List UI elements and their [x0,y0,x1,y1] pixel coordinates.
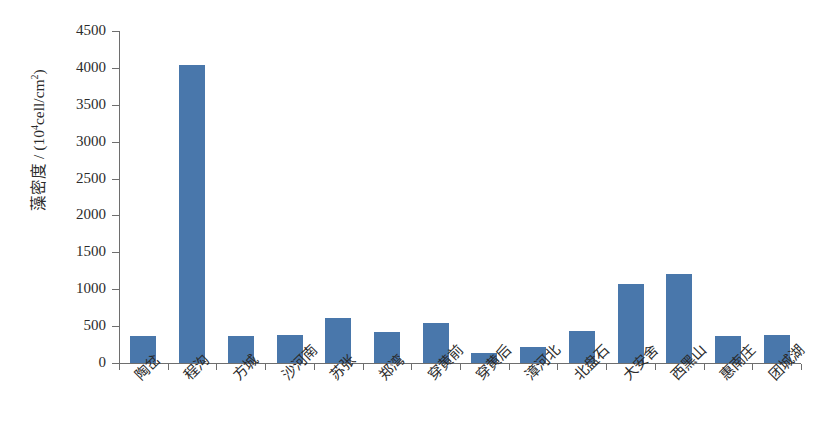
x-tick-mark [216,364,217,370]
y-tick-label: 4500 [46,23,106,38]
x-tick-mark [704,364,705,370]
y-tick-mark [112,252,119,253]
y-tick-label: 1000 [46,281,106,296]
x-tick-mark [606,364,607,370]
y-tick-label: 2000 [46,207,106,222]
x-tick-mark [265,364,266,370]
y-tick-mark [112,326,119,327]
y-tick-mark [112,68,119,69]
bar [666,274,692,363]
y-tick-mark [112,142,119,143]
y-tick-label: 1500 [46,244,106,259]
x-tick-mark [363,364,364,370]
y-tick-label: 0 [46,355,106,370]
x-tick-mark [752,364,753,370]
y-axis-line [119,31,120,364]
algae-density-bar-chart: 藻密度 / (104cell/cm2) 05001000150020002500… [0,0,820,441]
y-axis-title-prefix: 藻密度 / (10 [30,130,47,211]
x-tick-mark [460,364,461,370]
y-tick-mark [112,289,119,290]
y-tick-mark [112,31,119,32]
y-axis-title-close: ) [30,69,47,74]
x-tick-mark [557,364,558,370]
y-tick-label: 500 [46,318,106,333]
y-tick-label: 2500 [46,171,106,186]
x-tick-mark [314,364,315,370]
x-tick-mark [119,364,120,370]
bar [179,65,205,363]
x-tick-mark [168,364,169,370]
y-axis-title-exponent-2: 2 [29,74,40,79]
y-tick-mark [112,105,119,106]
y-tick-label: 4000 [46,60,106,75]
y-axis-title-exponent-1: 4 [29,125,40,130]
y-tick-label: 3000 [46,134,106,149]
y-axis-title-suffix: cell/cm [30,79,47,125]
x-tick-mark [801,364,802,370]
x-tick-mark [655,364,656,370]
x-tick-mark [509,364,510,370]
y-tick-mark [112,363,119,364]
y-tick-mark [112,179,119,180]
y-tick-mark [112,215,119,216]
x-tick-mark [411,364,412,370]
y-tick-label: 3500 [46,97,106,112]
